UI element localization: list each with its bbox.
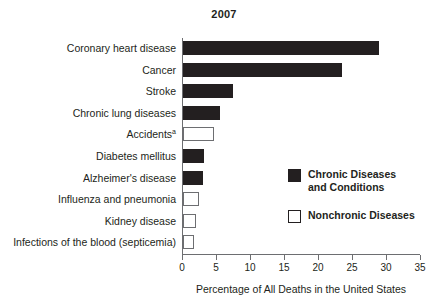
category-label: Stroke	[0, 85, 176, 97]
category-label: Chronic lung diseases	[0, 107, 176, 119]
legend-label: Chronic Diseases and Conditions	[308, 168, 396, 193]
bar-infections-of-the-blood-septicemia	[183, 235, 194, 249]
legend-swatch-chronic-icon	[288, 169, 301, 182]
x-tick-0	[182, 255, 183, 260]
legend-label: Nonchronic Diseases	[308, 209, 415, 222]
category-label-footnote: a	[172, 128, 176, 135]
x-tick-5	[216, 255, 217, 260]
category-label: Alzheimer's disease	[0, 172, 176, 184]
category-label: Cancer	[0, 64, 176, 76]
chart-title: 2007	[0, 8, 448, 20]
bar-stroke	[183, 84, 233, 98]
x-tick-label-0: 0	[167, 262, 197, 273]
category-label: Coronary heart disease	[0, 42, 176, 54]
x-tick-label-35: 35	[405, 262, 435, 273]
category-label: Infections of the blood (septicemia)	[0, 236, 176, 248]
bar-chronic-lung-diseases	[183, 106, 220, 120]
bar-kidney-disease	[183, 214, 196, 228]
x-tick-label-25: 25	[337, 262, 367, 273]
legend-item-chronic: Chronic Diseases and Conditions	[288, 168, 443, 193]
x-tick-35	[420, 255, 421, 260]
category-label: Diabetes mellitus	[0, 150, 176, 162]
legend-swatch-nonchronic-icon	[288, 210, 301, 223]
bar-coronary-heart-disease	[183, 41, 379, 55]
x-tick-25	[352, 255, 353, 260]
bar-cancer	[183, 63, 342, 77]
x-tick-label-5: 5	[201, 262, 231, 273]
bar-chart: 2007 05101520253035 Coronary heart disea…	[0, 0, 448, 308]
category-label: Kidney disease	[0, 215, 176, 227]
x-axis-line	[182, 254, 420, 255]
chart-legend: Chronic Diseases and ConditionsNonchroni…	[288, 168, 443, 239]
category-label: Accidentsa	[0, 128, 176, 140]
bar-accidents	[183, 127, 214, 141]
x-tick-20	[318, 255, 319, 260]
legend-item-nonchronic: Nonchronic Diseases	[288, 209, 443, 223]
bar-diabetes-mellitus	[183, 149, 204, 163]
x-tick-label-15: 15	[269, 262, 299, 273]
x-tick-label-30: 30	[371, 262, 401, 273]
x-tick-label-10: 10	[235, 262, 265, 273]
x-tick-15	[284, 255, 285, 260]
x-tick-label-20: 20	[303, 262, 333, 273]
bar-influenza-and-pneumonia	[183, 192, 199, 206]
category-label: Influenza and pneumonia	[0, 193, 176, 205]
x-tick-30	[386, 255, 387, 260]
x-axis-title: Percentage of All Deaths in the United S…	[182, 283, 420, 295]
bar-alzheimer-s-disease	[183, 171, 203, 185]
x-tick-10	[250, 255, 251, 260]
